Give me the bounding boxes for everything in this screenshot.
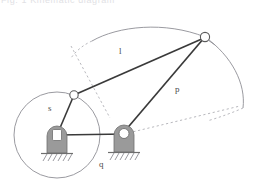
rocker-pivot-support: [108, 125, 140, 160]
crank-pivot-bore: [53, 130, 62, 141]
rocker-sweep-arc-dashed: [207, 108, 243, 121]
coupler-link-l: [74, 38, 204, 95]
linkage-diagram-svg: s l p q: [0, 0, 258, 191]
crank-pivot-support: [41, 126, 73, 161]
label-crank-s: s: [48, 103, 52, 113]
rocker-link-p: [124, 38, 204, 132]
label-rocker-p: p: [175, 84, 180, 94]
crank-pin-joint: [70, 91, 78, 99]
rocker-pivot-bore: [119, 129, 129, 139]
coupler-joint-upper-arc-dashed: [71, 41, 92, 58]
coupler-joint-upper-arc: [92, 27, 205, 41]
rocker-extreme-position-dashed: [124, 106, 240, 134]
diagram-canvas: Fig. 1 Kinematic diagram: [0, 0, 258, 191]
rocker-sweep-arc: [205, 37, 243, 108]
label-ground-q: q: [99, 159, 104, 169]
label-coupler-l: l: [119, 46, 122, 56]
crank-pivot-hatching: [43, 154, 72, 161]
joint-tick-mark: [208, 40, 215, 45]
cut-off-caption-text: Fig. 1 Kinematic diagram: [1, 0, 141, 6]
rocker-pivot-hatching: [110, 153, 139, 160]
